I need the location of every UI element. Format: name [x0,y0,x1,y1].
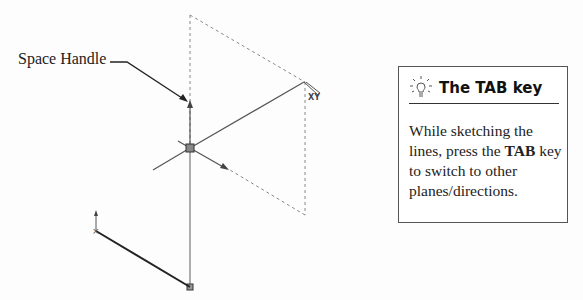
callout-leader [110,62,185,100]
tip-title: The TAB key [439,79,542,97]
cursor-icon: XY [304,82,320,102]
space-handle-arrow-up [187,100,193,108]
sketched-line [96,231,190,287]
origin-node [186,144,194,152]
direction-arrow-right [220,163,229,170]
svg-text:×: × [92,226,100,236]
tip-body: While sketching the lines, press the TAB… [409,121,565,201]
lightbulb-icon [409,75,433,101]
tip-header: The TAB key [409,73,559,104]
space-handle-label: Space Handle [18,50,106,68]
tip-text-key: TAB [505,142,536,159]
svg-text:XY: XY [308,93,320,102]
tip-box: The TAB key While sketching the lines, p… [398,66,568,223]
sketch-line-active [190,82,304,148]
